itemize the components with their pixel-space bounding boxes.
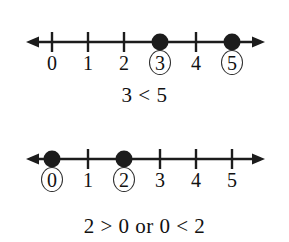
tick-label-2-text: 2 [113,167,135,192]
point-dot-5 [224,34,241,51]
tick-label-2-circled: 2 [113,167,135,193]
arrow-right-icon [252,154,265,165]
tick-label-1: 1 [80,167,96,193]
tick-label-4-text: 4 [188,50,204,76]
arrow-right-icon [252,37,265,48]
tick-label-5-circled: 5 [221,50,243,76]
inequality-expression-2: 2 > 0 or 0 < 2 [0,213,289,239]
point-dot-2 [116,151,133,168]
number-line-figure-1: 0 1 2 3 4 5 3 < 5 [0,0,289,121]
point-dot-3 [152,34,169,51]
tick-label-2: 2 [116,50,132,76]
tick-label-3-text: 3 [149,50,171,75]
tick-label-0-circled: 0 [41,167,63,193]
point-dot-0 [44,151,61,168]
tick-label-3: 3 [152,167,168,193]
arrow-left-icon [26,37,39,48]
inequality-expression-1: 3 < 5 [0,82,289,108]
tick-labels-1: 0 1 2 3 4 5 [0,50,289,80]
tick-label-4-text: 4 [188,167,204,193]
tick-label-0: 0 [44,50,60,76]
tick-label-1-text: 1 [80,167,96,193]
arrow-left-icon [26,154,39,165]
tick-label-2-text: 2 [116,50,132,76]
number-line-figure-2: 0 1 2 3 4 5 2 > 0 or 0 < 2 [0,117,289,242]
tick-label-0-text: 0 [41,167,63,192]
tick-label-5-text: 5 [221,50,243,75]
tick-label-1-text: 1 [80,50,96,76]
tick-labels-2: 0 1 2 3 4 5 [0,167,289,197]
tick-label-1: 1 [80,50,96,76]
tick-label-3-circled: 3 [149,50,171,76]
tick-label-4: 4 [188,50,204,76]
tick-label-5: 5 [224,167,240,193]
tick-label-0-text: 0 [44,50,60,76]
tick-label-3-text: 3 [152,167,168,193]
tick-label-4: 4 [188,167,204,193]
tick-label-5-text: 5 [224,167,240,193]
